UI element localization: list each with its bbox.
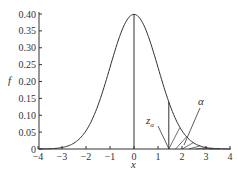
normal-distribution-chart: 00.050.100.150.200.250.300.350.40 −4−3−2… xyxy=(0,0,238,172)
y-tick-label: 0.30 xyxy=(19,42,37,53)
x-tick-label: 1 xyxy=(156,151,161,162)
y-tick-label: 0.15 xyxy=(19,93,37,104)
x-tick-label: −1 xyxy=(105,151,116,162)
alpha-leader xyxy=(184,108,200,145)
z-alpha-label: zα xyxy=(145,114,154,129)
x-axis-label: x xyxy=(130,158,136,170)
x-tick-label: 3 xyxy=(204,151,209,162)
hatched-tail-region xyxy=(169,128,220,149)
y-tick-label: 0.20 xyxy=(19,76,37,87)
y-tick-label: 0.05 xyxy=(19,127,37,138)
y-tick-label: 0.25 xyxy=(19,59,37,70)
x-tick-label: 4 xyxy=(228,151,233,162)
z-alpha-leader xyxy=(158,126,169,149)
y-tick-label: 0.10 xyxy=(19,110,37,121)
alpha-label: α xyxy=(198,95,204,107)
y-axis-ticks: 00.050.100.150.200.250.300.350.40 xyxy=(19,9,43,155)
y-tick-label: 0.40 xyxy=(19,9,37,20)
x-tick-label: −3 xyxy=(57,151,68,162)
y-axis-label: f xyxy=(8,74,13,86)
x-tick-label: −4 xyxy=(33,151,44,162)
x-tick-label: 2 xyxy=(180,151,185,162)
y-tick-label: 0.35 xyxy=(19,25,37,36)
x-tick-label: −2 xyxy=(81,151,92,162)
